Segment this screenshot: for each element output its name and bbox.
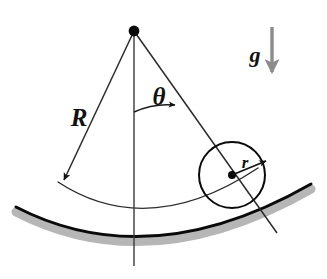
label-radius-r: r	[242, 153, 249, 172]
pivot-point	[129, 26, 140, 37]
ball-center-path-arc	[58, 168, 258, 208]
label-angle-theta: θ	[153, 83, 166, 110]
radius-r-arrow	[232, 161, 266, 175]
label-radius-R: R	[70, 104, 88, 131]
label-gravity-g: g	[249, 42, 261, 67]
physics-diagram-figure: R θ r g	[0, 0, 327, 279]
diagram-canvas: R θ r g	[0, 0, 327, 279]
